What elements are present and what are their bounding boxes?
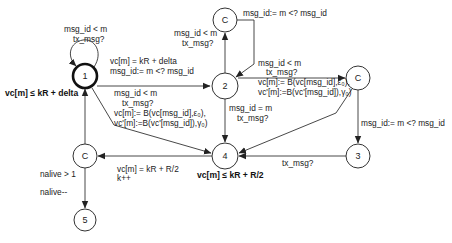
edge-2-4-guard: msg_id = m [229,103,272,113]
edge-1-4-update-2: vc'[m]:=B(vc'[msg_id]),γ₀) [114,118,208,128]
edge-2-ctop-sync: tx_msg? [182,38,214,48]
state-node-5-label: 5 [82,215,87,225]
invariant-node-4: vc[m] ≤ kR + R/2 [197,170,264,180]
edge-2-cright-sync: tx_msg? [266,67,298,77]
self-loop-1-guard: msg_id < m [64,24,107,34]
invariant-node-1: vc[m] ≤ kR + delta [5,88,78,98]
committed-node-left[interactable]: C [73,144,97,168]
edge-2-cright-update-2: vc'[m]:=B(vc'[msg_id]),γ₀) [258,87,352,97]
committed-node-right-label: C [355,73,362,83]
edge-1-4-sync: tx_msg? [122,98,154,108]
state-node-4[interactable]: 4 [212,143,238,169]
edge-cleft-5-guard: nalive > 1 [40,169,76,179]
state-node-1-label: 1 [82,71,87,81]
edge-3-4-sync: tx_msg? [282,158,314,168]
edge-ctop-to-2 [236,20,254,77]
state-node-3-label: 3 [355,151,360,161]
edge-cleft-5-update: nalive-- [40,187,67,197]
committed-node-top-label: C [222,15,229,25]
state-node-2-label: 2 [222,81,227,91]
self-loop-1-sync: tx_msg? [73,34,105,44]
state-node-4-label: 4 [222,151,227,161]
edge-2-4-sync: tx_msg? [237,113,269,123]
edge-1-2-guard: vc[m] = kR + delta [110,56,177,66]
state-node-3[interactable]: 3 [346,144,370,168]
edge-1-2-update: msg_id:= m <? msg_id [110,66,194,76]
edge-ctop-2-update: msg_id:= m <? msg_id [243,8,327,18]
edge-1-4-update-1: vc[m]:= B(vc[msg_id],ε₀), [114,108,206,118]
edge-1-4-guard: msg_id < m [114,88,157,98]
edge-2-ctop-guard: msg_id < m [174,28,217,38]
state-node-1[interactable]: 1 [73,64,97,88]
edge-4-cleft-update-2: k++ [117,173,131,183]
state-node-5[interactable]: 5 [74,209,96,231]
edge-cright-3-update: msg_id:= m <? msg_id [361,118,445,128]
edge-2-cright-update-1: vc[m]:= B(vc[msg_id],ε₀), [258,77,350,87]
state-node-2[interactable]: 2 [212,73,238,99]
committed-node-left-label: C [82,151,89,161]
state-diagram: 1 2 C C 3 4 C 5 vc[m] ≤ kR + delta vc[m]… [0,0,452,243]
